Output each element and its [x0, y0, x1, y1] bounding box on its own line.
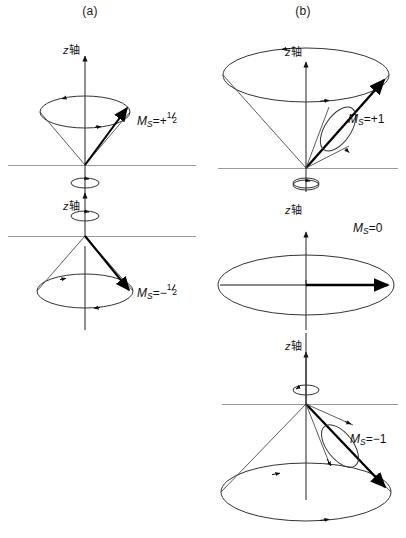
- ellipse-direction-arrow-bottom: [95, 127, 101, 128]
- cone-edge-left: [37, 236, 85, 291]
- ms-denominator: 2: [172, 115, 177, 125]
- ms-equals: =: [364, 112, 371, 126]
- z-axis-label-a1: z轴: [63, 41, 80, 57]
- spin-direction-arrow-lower: [327, 459, 331, 466]
- z-axis-cjk: 轴: [291, 46, 302, 58]
- diagram-ms-zero: [218, 180, 394, 330]
- ms-numerator: 1: [167, 110, 172, 120]
- ms-value: −1: [373, 432, 387, 446]
- ms-label-plus-one: MS=+1: [348, 112, 384, 127]
- ms-symbol-m: M: [353, 221, 363, 235]
- spin-vector-diagram: [0, 0, 406, 538]
- figure-canvas: (a) (b): [0, 0, 406, 538]
- ms-label-plus-half: MS=+12: [137, 113, 179, 129]
- z-axis-cjk: 轴: [69, 200, 80, 212]
- ms-denominator: 2: [172, 287, 177, 297]
- ms-sign: +: [160, 114, 167, 128]
- z-axis-cjk: 轴: [291, 204, 302, 216]
- ms-symbol-m: M: [137, 114, 147, 128]
- panel-a-header: (a): [70, 4, 110, 18]
- z-axis-cjk: 轴: [291, 340, 302, 352]
- spin-direction-arrow-upper: [345, 422, 351, 425]
- ms-equals: =: [153, 114, 160, 128]
- ms-symbol-m: M: [350, 432, 360, 446]
- ellipse-direction-arrow-top: [60, 278, 66, 279]
- ms-label-minus-one: MS=−1: [350, 432, 386, 447]
- spin-cone-edge-upper: [306, 107, 329, 168]
- spin-direction-arrow: [345, 149, 349, 153]
- ms-symbol-m: M: [137, 286, 147, 300]
- ms-equals: =: [366, 432, 373, 446]
- ms-equals: =: [153, 286, 160, 300]
- diagram-ms-minus-one: [221, 333, 398, 521]
- ellipse-direction-arrow-top: [272, 473, 280, 474]
- cone-edge-left: [40, 112, 85, 165]
- z-axis-cjk: 轴: [69, 44, 80, 56]
- ms-value: +1: [371, 112, 385, 126]
- ms-label-minus-half: MS=−12: [137, 285, 179, 301]
- diagram-ms-minus-half: [8, 193, 196, 330]
- ms-equals: =: [369, 221, 376, 235]
- z-axis-label-b1: z轴: [285, 43, 302, 59]
- cone-edge-left: [221, 404, 306, 492]
- ms-label-zero: MS=0: [353, 221, 382, 236]
- ms-fraction: 12: [167, 113, 179, 125]
- ms-fraction: 12: [167, 285, 179, 297]
- spin-cone-edge-lower: [306, 146, 349, 168]
- panel-b-header: (b): [283, 4, 323, 18]
- z-axis-label-b2: z轴: [285, 201, 302, 217]
- z-axis-label-b3: z轴: [285, 337, 302, 353]
- cone-edge-left: [223, 75, 306, 168]
- ms-sign: −: [160, 286, 167, 300]
- spin-vector: [85, 108, 127, 165]
- spin-vector: [85, 236, 129, 290]
- ms-symbol-m: M: [348, 112, 358, 126]
- ms-value: 0: [376, 221, 383, 235]
- z-axis-label-a2: z轴: [63, 197, 80, 213]
- ms-numerator: 1: [167, 282, 172, 292]
